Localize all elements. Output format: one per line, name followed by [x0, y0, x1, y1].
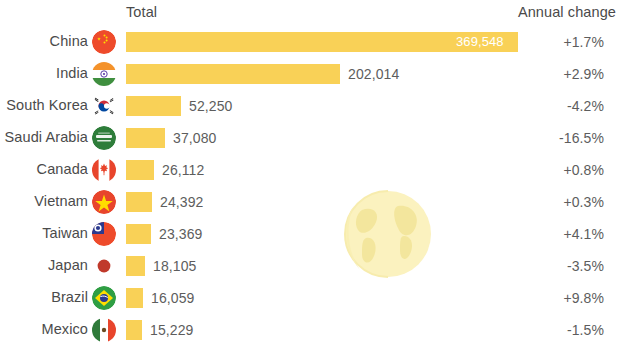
bar[interactable] — [126, 320, 142, 340]
bar-value-label: 23,369 — [159, 226, 202, 242]
bar-rows: China369,548+1.7%India202,014+2.9%South … — [0, 26, 624, 346]
bar[interactable] — [126, 96, 181, 116]
annual-change-value: -1.5% — [567, 322, 604, 338]
bar-value-label: 52,250 — [189, 98, 232, 114]
country-label: Vietnam — [34, 193, 88, 209]
annual-change-value: +0.3% — [563, 194, 604, 210]
country-label: China — [50, 33, 88, 49]
bar[interactable] — [126, 192, 152, 212]
annual-change-value: +0.8% — [563, 162, 604, 178]
flag-brazil-icon — [92, 286, 116, 310]
table-row[interactable]: Mexico15,229-1.5% — [0, 314, 624, 346]
flag-south-korea-icon — [92, 94, 116, 118]
annual-change-value: +1.7% — [563, 34, 604, 50]
bar-value-label: 26,112 — [162, 162, 204, 178]
bar-value-label: 202,014 — [348, 66, 399, 82]
flag-vietnam-icon — [92, 190, 116, 214]
bar-value-label: 369,548 — [456, 34, 504, 49]
bar-value-label: 15,229 — [150, 322, 193, 338]
country-label: India — [56, 65, 88, 81]
bar-value-label: 37,080 — [173, 130, 216, 146]
table-row[interactable]: Vietnam24,392+0.3% — [0, 186, 624, 218]
country-label: Taiwan — [42, 225, 88, 241]
bar[interactable] — [126, 128, 165, 148]
column-header-total: Total — [126, 4, 157, 20]
bar-value-label: 18,105 — [153, 258, 196, 274]
annual-change-value: -3.5% — [567, 258, 604, 274]
annual-change-value: +2.9% — [563, 66, 604, 82]
country-label: Canada — [37, 161, 88, 177]
table-row[interactable]: Brazil16,059+9.8% — [0, 282, 624, 314]
bar-value-label: 16,059 — [151, 290, 194, 306]
annual-change-value: +9.8% — [563, 290, 604, 306]
bar-chart: Total Annual change China369,548+1.7%Ind… — [0, 0, 624, 346]
table-row[interactable]: Japan18,105-3.5% — [0, 250, 624, 282]
flag-saudi-arabia-icon — [92, 126, 116, 150]
country-label: Saudi Arabia — [5, 129, 88, 145]
bar[interactable] — [126, 256, 145, 276]
table-row[interactable]: South Korea52,250-4.2% — [0, 90, 624, 122]
flag-mexico-icon — [92, 318, 116, 342]
bar[interactable] — [126, 288, 143, 308]
annual-change-value: -4.2% — [567, 98, 604, 114]
country-label: Brazil — [51, 289, 88, 305]
table-row[interactable]: Taiwan23,369+4.1% — [0, 218, 624, 250]
bar[interactable] — [126, 64, 340, 84]
country-label: South Korea — [6, 97, 88, 113]
table-row[interactable]: Canada26,112+0.8% — [0, 154, 624, 186]
flag-japan-icon — [92, 254, 116, 278]
table-row[interactable]: Saudi Arabia37,080-16.5% — [0, 122, 624, 154]
bar-value-label: 24,392 — [160, 194, 203, 210]
annual-change-value: -16.5% — [559, 130, 604, 146]
country-label: Mexico — [41, 321, 88, 337]
flag-canada-icon — [92, 158, 116, 182]
flag-india-icon — [92, 62, 116, 86]
flag-china-icon — [92, 30, 116, 54]
bar[interactable] — [126, 224, 151, 244]
bar[interactable] — [126, 160, 154, 180]
annual-change-value: +4.1% — [563, 226, 604, 242]
column-header-annual-change: Annual change — [518, 4, 616, 20]
table-row[interactable]: India202,014+2.9% — [0, 58, 624, 90]
table-row[interactable]: China369,548+1.7% — [0, 26, 624, 58]
country-label: Japan — [48, 257, 88, 273]
flag-taiwan-icon — [92, 222, 116, 246]
chart-header: Total Annual change — [0, 0, 624, 26]
